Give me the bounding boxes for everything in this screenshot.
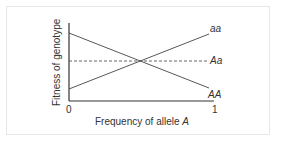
line-aa [69,34,209,89]
line-AA [69,33,209,88]
x-axis-label-text: Frequency of allele [95,116,182,127]
y-axis-label: Fitness of genotype [51,18,62,106]
label-Aa: Aa [209,55,223,66]
x-tick-0: 0 [66,104,72,115]
fitness-chart: aa Aa AA 0 1 Frequency of allele A Fitne… [0,0,284,143]
label-aa: aa [210,23,222,34]
x-tick-1: 1 [212,104,218,115]
x-axis-label: Frequency of allele A [95,116,189,127]
label-AA: AA [207,89,222,100]
x-axis-label-italic: A [181,116,189,127]
